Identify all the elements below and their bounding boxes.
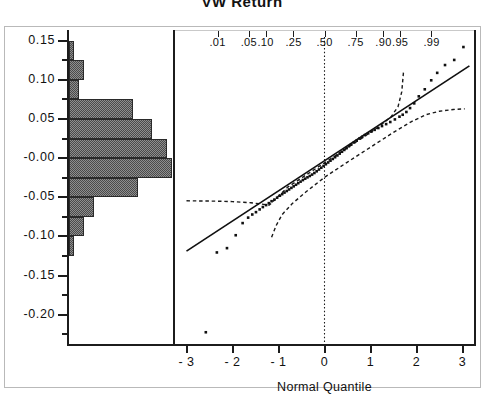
- histogram-bar: [69, 236, 74, 256]
- histogram-bar: [69, 139, 167, 159]
- y-tick-minor: [62, 216, 69, 218]
- histogram-bar: [69, 178, 138, 198]
- x-axis-label: 1: [351, 355, 391, 369]
- probability-label: .99: [413, 36, 449, 48]
- y-tick-minor: [62, 177, 69, 179]
- x-tick: [462, 344, 464, 353]
- x-axis-title: Normal Quantile: [173, 380, 476, 394]
- histogram-bar: [69, 197, 94, 217]
- y-tick-major: [58, 235, 69, 237]
- y-tick-minor: [62, 333, 69, 335]
- x-axis-label: 0: [305, 355, 345, 369]
- y-tick-minor: [62, 255, 69, 257]
- y-axis-label: -0.05: [0, 189, 55, 203]
- y-axis-label: -0.15: [0, 268, 55, 282]
- y-tick-major: [58, 314, 69, 316]
- x-tick: [278, 344, 280, 353]
- y-tick-minor: [62, 294, 69, 296]
- y-tick-major: [58, 79, 69, 81]
- chart-root: VW Return 0.150.100.05-0.00-0.05-0.10-0.…: [0, 0, 484, 409]
- y-axis-label: 0.05: [0, 111, 55, 125]
- y-tick-major: [58, 275, 69, 277]
- histogram-bar: [69, 119, 152, 139]
- x-axis-label: 2: [397, 355, 437, 369]
- x-tick: [324, 344, 326, 353]
- y-tick-minor: [62, 138, 69, 140]
- y-tick-minor: [62, 98, 69, 100]
- x-axis-label: - 2: [213, 355, 253, 369]
- y-tick-major: [58, 196, 69, 198]
- x-axis-label: 3: [443, 355, 483, 369]
- qq-right-border: [474, 30, 476, 346]
- y-axis-label: -0.00: [0, 150, 55, 164]
- histogram-bar: [69, 158, 172, 178]
- histogram-bar: [69, 80, 79, 100]
- x-tick: [370, 344, 372, 353]
- y-axis-label: 0.10: [0, 72, 55, 86]
- x-tick: [232, 344, 234, 353]
- y-tick-major: [58, 40, 69, 42]
- histogram-bar: [69, 60, 84, 80]
- y-tick-major: [58, 157, 69, 159]
- x-tick: [186, 344, 188, 353]
- qq-y-axis: [173, 30, 175, 346]
- y-axis-label: -0.10: [0, 228, 55, 242]
- histogram-bar: [69, 41, 74, 61]
- y-tick-major: [58, 118, 69, 120]
- histogram-bar: [69, 99, 133, 119]
- x-axis-label: - 1: [259, 355, 299, 369]
- y-axis-label: -0.20: [0, 307, 55, 321]
- x-tick: [416, 344, 418, 353]
- histogram-x-axis: [67, 344, 174, 346]
- histogram-bar: [69, 217, 84, 237]
- y-tick-minor: [62, 59, 69, 61]
- chart-title: VW Return: [0, 0, 484, 10]
- y-axis-label: 0.15: [0, 33, 55, 47]
- x-axis-label: - 3: [167, 355, 207, 369]
